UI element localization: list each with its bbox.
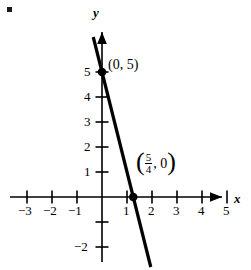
y-tick-label-4: 4 bbox=[84, 90, 91, 103]
x-tick-label-3: 3 bbox=[173, 204, 180, 217]
x-tick-label-5: 5 bbox=[223, 204, 230, 217]
x-axis-name: x bbox=[234, 192, 241, 205]
y-axis-arrow-icon bbox=[97, 32, 107, 44]
paren-close: ) bbox=[167, 152, 176, 173]
y-tick-label-neg2: −2 bbox=[74, 240, 88, 253]
x-tick-label-neg1: −1 bbox=[68, 204, 82, 217]
fraction-label-rest: , 0 bbox=[153, 157, 167, 171]
point-y-intercept bbox=[98, 68, 107, 77]
x-tick-label-neg3: −3 bbox=[18, 204, 32, 217]
graph-figure: y x −3 −2 −1 1 2 3 4 5 5 4 3 2 1 −2 (0, … bbox=[0, 0, 251, 270]
y-tick-label-5: 5 bbox=[84, 65, 91, 78]
graph-canvas bbox=[0, 0, 251, 270]
point-label-x-intercept: ( 5 4 , 0 ) bbox=[136, 152, 176, 175]
fraction-denominator: 4 bbox=[145, 163, 153, 175]
fraction-five-fourths: 5 4 bbox=[145, 152, 153, 175]
x-tick-label-4: 4 bbox=[198, 204, 205, 217]
x-axis-arrow-icon bbox=[210, 192, 222, 202]
point-x-intercept bbox=[129, 193, 138, 202]
fraction-numerator: 5 bbox=[145, 152, 153, 163]
y-tick-label-1: 1 bbox=[84, 165, 91, 178]
y-axis-name: y bbox=[93, 6, 99, 19]
y-tick-label-3: 3 bbox=[84, 115, 91, 128]
y-tick-label-2: 2 bbox=[84, 140, 91, 153]
x-tick-label-2: 2 bbox=[148, 204, 155, 217]
x-tick-label-neg2: −2 bbox=[43, 204, 57, 217]
x-tick-label-1: 1 bbox=[123, 204, 130, 217]
point-label-y-intercept: (0, 5) bbox=[108, 58, 138, 72]
paren-open: ( bbox=[136, 152, 145, 173]
